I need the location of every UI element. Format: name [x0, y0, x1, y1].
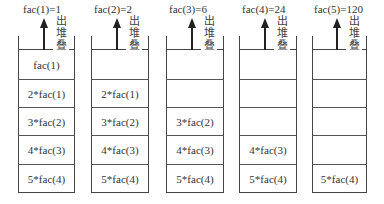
up-arrow-icon [333, 18, 341, 28]
stack-cell: 4*fac(3) [91, 135, 149, 164]
up-arrow-icon [261, 18, 269, 28]
stack-cell [312, 50, 367, 79]
stack-result-label: fac(2)=2 [94, 3, 132, 15]
up-arrow-icon [264, 26, 266, 50]
stack-cell [91, 50, 149, 79]
stack-2: fac(2)=2出堆叠2*fac(1)3*fac(2)4*fac(3)5*fac… [91, 0, 149, 204]
stack-cell: 5*fac(4) [18, 164, 75, 193]
pop-stack-label: 出堆叠 [276, 16, 288, 52]
up-arrow-icon [116, 26, 118, 50]
stack-cell: 4*fac(3) [239, 135, 297, 164]
stack-cell: 5*fac(4) [166, 164, 224, 193]
stack-cell: 3*fac(2) [166, 107, 224, 135]
pop-stack-label: 出堆叠 [348, 16, 360, 52]
stack-1: fac(1)=1出堆叠fac(1)2*fac(1)3*fac(2)4*fac(3… [18, 0, 75, 204]
stack-cell: 3*fac(2) [18, 107, 75, 135]
stack-cell [312, 135, 367, 164]
up-arrow-icon [336, 26, 338, 50]
stack-cell: 5*fac(4) [312, 164, 367, 193]
up-arrow-icon [113, 18, 121, 28]
up-arrow-icon [191, 26, 193, 50]
up-arrow-icon [188, 18, 196, 28]
stack-cell: 2*fac(1) [91, 79, 149, 107]
up-arrow-icon [43, 26, 45, 50]
stack-cell: 4*fac(3) [166, 135, 224, 164]
stack-4: fac(4)=24出堆叠4*fac(3)5*fac(4) [239, 0, 297, 204]
stack-cell [239, 50, 297, 79]
stack-cell [239, 107, 297, 135]
stack-cell: fac(1) [18, 50, 75, 79]
stack-cell [312, 107, 367, 135]
up-arrow-icon [40, 18, 48, 28]
stack-result-label: fac(4)=24 [242, 3, 285, 15]
stack-cell: 5*fac(4) [91, 164, 149, 193]
stack-cell: 3*fac(2) [91, 107, 149, 135]
pop-stack-label: 出堆叠 [203, 16, 215, 52]
stack-result-label: fac(1)=1 [23, 3, 61, 15]
stack-cell [166, 50, 224, 79]
stack-5: fac(5)=120出堆叠5*fac(4) [312, 0, 367, 204]
stack-cell [312, 79, 367, 107]
stack-cell: 4*fac(3) [18, 135, 75, 164]
pop-stack-label: 出堆叠 [55, 16, 67, 52]
stack-3: fac(3)=6出堆叠3*fac(2)4*fac(3)5*fac(4) [166, 0, 224, 204]
stack-result-label: fac(3)=6 [169, 3, 207, 15]
stack-cell [166, 79, 224, 107]
stack-cell [239, 79, 297, 107]
stack-cell: 5*fac(4) [239, 164, 297, 193]
stack-cell: 2*fac(1) [18, 79, 75, 107]
stack-result-label: fac(5)=120 [314, 3, 363, 15]
pop-stack-label: 出堆叠 [128, 16, 140, 52]
